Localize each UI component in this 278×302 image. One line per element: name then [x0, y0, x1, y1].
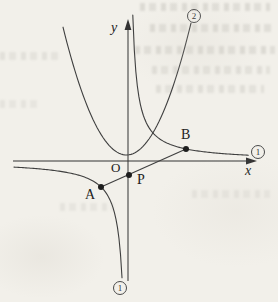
textbook-figure: y x O P A B 2 1 1 — [0, 0, 278, 302]
curve-1-bottom-badge: 1 — [113, 281, 127, 295]
y-axis-label: y — [111, 21, 117, 35]
origin-label: O — [111, 161, 120, 174]
curve-2-badge: 2 — [187, 9, 201, 23]
point-a-dot — [98, 184, 104, 190]
y-axis-arrowhead — [125, 19, 132, 30]
curve-1-right-badge: 1 — [251, 145, 265, 159]
hyperbola-branch-q1 — [133, 15, 249, 155]
point-b-label: B — [181, 128, 190, 142]
point-p-dot — [126, 172, 132, 178]
hyperbola-branch-q3 — [14, 167, 122, 278]
parabola-curve — [63, 23, 191, 155]
point-p-label: P — [137, 173, 145, 187]
x-axis-label: x — [245, 164, 251, 178]
point-a-label: A — [85, 188, 95, 202]
point-b-dot — [183, 146, 189, 152]
coordinate-plot — [0, 0, 278, 302]
